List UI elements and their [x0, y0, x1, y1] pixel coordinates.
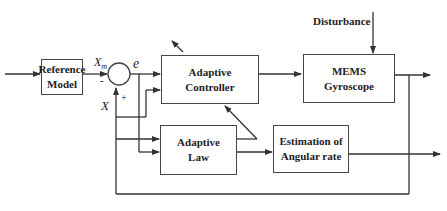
adaptive-controller-label-line1: Adaptive: [189, 65, 232, 80]
adaptive-law-label-line1: Adaptive: [177, 135, 220, 150]
reference-model-label-line2: Model: [47, 77, 77, 92]
minus-sign: -: [100, 74, 104, 86]
block-diagram: Reference Model Adaptive Controller MEMS…: [0, 0, 447, 211]
mems-gyroscope-block: MEMS Gyroscope: [303, 54, 395, 103]
reference-model-label-line1: Reference: [39, 62, 86, 77]
estimation-label-line1: Estimation of: [279, 134, 342, 149]
mems-gyroscope-label-line1: MEMS: [332, 64, 366, 79]
xm-label: Xm: [94, 55, 107, 71]
connection-lines: [0, 0, 447, 211]
adaptive-law-block: Adaptive Law: [160, 125, 237, 175]
disturbance-label: Disturbance: [313, 15, 370, 27]
mems-gyroscope-label-line2: Gyroscope: [324, 79, 374, 94]
error-label: e: [133, 56, 139, 72]
estimation-label-line2: Angular rate: [281, 149, 342, 164]
reference-model-block: Reference Model: [41, 59, 83, 95]
state-x-label: X: [101, 98, 109, 114]
estimation-block: Estimation of Angular rate: [273, 125, 349, 173]
plus-sign: +: [121, 92, 127, 103]
adaptive-controller-block: Adaptive Controller: [161, 55, 259, 104]
adaptive-law-label-line2: Law: [188, 150, 209, 165]
adaptive-controller-label-line2: Controller: [185, 80, 234, 95]
